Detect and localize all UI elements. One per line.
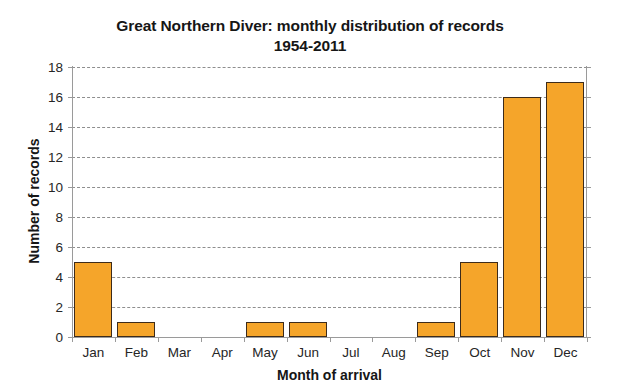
bar[interactable] — [546, 82, 584, 337]
x-tick-mark — [158, 337, 159, 342]
bar-slot[interactable] — [458, 67, 501, 337]
bar-slot[interactable] — [244, 67, 287, 337]
x-axis-title: Month of arrival — [72, 367, 587, 383]
y-tick-label: 0 — [55, 330, 63, 345]
bar-slot[interactable] — [201, 67, 244, 337]
y-tick-label: 8 — [55, 210, 63, 225]
chart-subtitle: 1954-2011 — [0, 36, 620, 56]
x-tick-label: Jun — [287, 345, 330, 360]
bar-slot[interactable] — [372, 67, 415, 337]
x-tick-label: Oct — [458, 345, 501, 360]
bar[interactable] — [246, 322, 284, 337]
x-tick-mark — [72, 337, 73, 342]
bar-slot[interactable] — [330, 67, 373, 337]
x-tick-mark — [501, 337, 502, 342]
x-tick-label: Sep — [415, 345, 458, 360]
x-tick-label: Jan — [72, 345, 115, 360]
x-tick-label: Nov — [501, 345, 544, 360]
y-tick-label: 18 — [48, 60, 63, 75]
x-tick-mark — [587, 337, 588, 342]
x-tick-mark — [287, 337, 288, 342]
x-tick-mark — [458, 337, 459, 342]
x-tick-mark — [415, 337, 416, 342]
x-tick-label: Aug — [372, 345, 415, 360]
y-tick-label: 6 — [55, 240, 63, 255]
x-tick-label: May — [244, 345, 287, 360]
bar-slot[interactable] — [287, 67, 330, 337]
bar[interactable] — [117, 322, 155, 337]
x-tick-label: Jul — [330, 345, 373, 360]
bar-slot[interactable] — [158, 67, 201, 337]
x-tick-mark — [244, 337, 245, 342]
y-tick-label: 14 — [48, 120, 63, 135]
x-tick-mark — [115, 337, 116, 342]
bar[interactable] — [289, 322, 327, 337]
y-tick-label: 10 — [48, 180, 63, 195]
bars-layer — [72, 67, 587, 337]
bar-slot[interactable] — [115, 67, 158, 337]
bar[interactable] — [417, 322, 455, 337]
chart-title: Great Northern Diver: monthly distributi… — [0, 16, 620, 56]
x-tick-mark — [330, 337, 331, 342]
x-tick-label: Apr — [201, 345, 244, 360]
plot-area: 024681012141618 JanFebMarAprMayJunJulAug… — [72, 67, 587, 337]
y-tick-label: 4 — [55, 270, 63, 285]
bar-slot[interactable] — [415, 67, 458, 337]
bar[interactable] — [74, 262, 112, 337]
chart-title-line1: Great Northern Diver: monthly distributi… — [116, 17, 503, 34]
bar[interactable] — [503, 97, 541, 337]
bar-chart-figure: Great Northern Diver: monthly distributi… — [0, 0, 620, 392]
y-tick-label: 12 — [48, 150, 63, 165]
x-tick-mark — [201, 337, 202, 342]
bar-slot[interactable] — [544, 67, 587, 337]
x-tick-label: Feb — [115, 345, 158, 360]
x-tick-label: Mar — [158, 345, 201, 360]
bar-slot[interactable] — [72, 67, 115, 337]
bar[interactable] — [460, 262, 498, 337]
x-tick-label: Dec — [544, 345, 587, 360]
y-axis-title: Number of records — [26, 106, 42, 296]
x-tick-mark — [372, 337, 373, 342]
y-tick-label: 16 — [48, 90, 63, 105]
y-tick-label: 2 — [55, 300, 63, 315]
bar-slot[interactable] — [501, 67, 544, 337]
x-tick-mark — [544, 337, 545, 342]
